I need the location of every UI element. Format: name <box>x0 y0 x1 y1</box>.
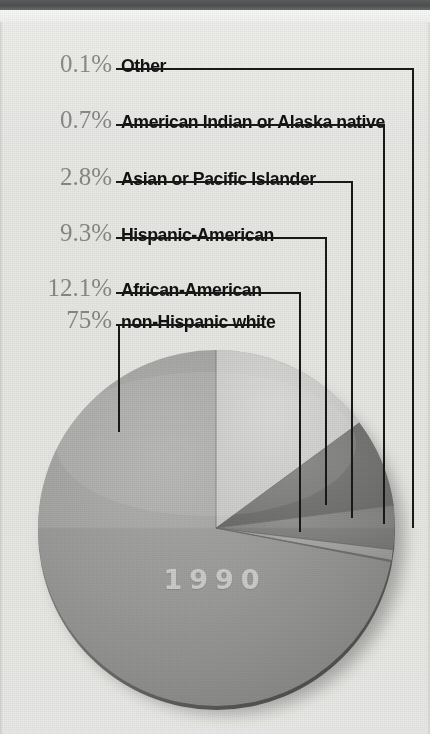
masthead-bar <box>0 0 430 10</box>
legend-label-other: Other <box>121 52 166 80</box>
legend-percent-asian: 2.8% <box>0 163 112 191</box>
legend-row-african-american[interactable]: 12.1% African-American <box>0 274 272 308</box>
legend-row-non-hispanic-white[interactable]: 75% non-Hispanic white <box>0 306 287 340</box>
legend-label-hispanic: Hispanic-American <box>121 221 274 249</box>
pie-bottom-shade <box>38 528 394 706</box>
legend-row-other[interactable]: 0.1% Other <box>0 50 169 84</box>
legend-label-non-hispanic-white: non-Hispanic white <box>121 308 275 336</box>
legend-percent-african-american: 12.1% <box>0 274 112 302</box>
legend-label-asian: Asian or Pacific Islander <box>121 165 316 193</box>
legend-row-american-indian[interactable]: 0.7% American Indian or Alaska native <box>0 106 405 140</box>
legend-label-american-indian: American Indian or Alaska native <box>121 108 385 136</box>
pie-slices <box>36 348 396 708</box>
legend-percent-non-hispanic-white: 75% <box>0 306 112 334</box>
page-edge-left <box>0 10 3 734</box>
legend-percent-hispanic: 9.3% <box>0 219 112 247</box>
pie-top-highlight <box>56 372 356 516</box>
legend-row-hispanic[interactable]: 9.3% Hispanic-American <box>0 219 285 253</box>
legend-row-asian[interactable]: 2.8% Asian or Pacific Islander <box>0 163 330 197</box>
chart-page: 1990 0.1% Other 0.7% American Indian o <box>0 0 430 734</box>
masthead-highlight <box>0 10 430 22</box>
legend-percent-american-indian: 0.7% <box>0 106 112 134</box>
legend-label-african-american: African-American <box>121 276 262 304</box>
legend-percent-other: 0.1% <box>0 50 112 78</box>
